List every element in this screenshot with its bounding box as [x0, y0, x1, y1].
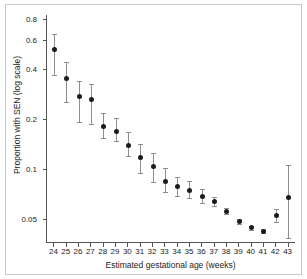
y-tick-mark [43, 119, 47, 120]
data-point [175, 184, 180, 189]
error-bar-cap [77, 122, 82, 123]
data-point [151, 164, 156, 169]
y-tick-label: 0.2 [26, 115, 37, 124]
y-tick-mark [43, 19, 47, 20]
x-tick-label: 38 [222, 247, 231, 256]
error-bar-cap [286, 238, 291, 239]
error-bar-cap [212, 197, 217, 198]
error-bar-cap [200, 203, 205, 204]
error-bar-cap [187, 198, 192, 199]
error-bar-cap [286, 165, 291, 166]
data-point [237, 219, 242, 224]
data-point [64, 76, 69, 81]
data-layer [47, 15, 295, 242]
data-point [200, 194, 205, 199]
error-bar [54, 34, 55, 75]
error-bar-cap [175, 177, 180, 178]
error-bar-cap [138, 173, 143, 174]
x-tick-label: 41 [258, 247, 267, 256]
error-bar-cap [163, 192, 168, 193]
error-bar-cap [151, 153, 156, 154]
data-point [114, 129, 119, 134]
error-bar-cap [163, 168, 168, 169]
x-tick-label: 30 [123, 247, 132, 256]
x-tick-label: 31 [135, 247, 144, 256]
data-point [126, 143, 131, 148]
error-bar-cap [200, 189, 205, 190]
error-bar-cap [52, 34, 57, 35]
x-tick-label: 42 [271, 247, 280, 256]
x-tick-label: 29 [111, 247, 120, 256]
error-bar-cap [89, 124, 94, 125]
x-tick-label: 25 [61, 247, 70, 256]
error-bar-cap [89, 84, 94, 85]
figure-container: 0.80.60.40.20.10.05 24252627282930313233… [0, 0, 307, 279]
error-bar [288, 165, 289, 238]
y-axis-title: Proportion with SEN (log scale) [12, 15, 22, 215]
error-bar-cap [101, 138, 106, 139]
x-tick-label: 40 [246, 247, 255, 256]
error-bar-cap [52, 75, 57, 76]
error-bar-cap [212, 206, 217, 207]
y-tick-label: 0.1 [26, 165, 37, 174]
error-bar [66, 62, 67, 101]
error-bar-cap [151, 182, 156, 183]
data-point [138, 155, 143, 160]
y-tick-label: 0.05 [21, 215, 37, 224]
error-bar-cap [175, 196, 180, 197]
y-tick-mark [43, 169, 47, 170]
error-bar-cap [138, 144, 143, 145]
error-bar-cap [126, 132, 131, 133]
error-bar-cap [274, 222, 279, 223]
y-tick-label: 0.6 [26, 36, 37, 45]
error-bar-cap [64, 102, 69, 103]
x-tick-label: 33 [160, 247, 169, 256]
data-point [212, 199, 217, 204]
y-tick-label: 0.4 [26, 65, 37, 74]
x-tick-label: 37 [209, 247, 218, 256]
error-bar-cap [126, 156, 131, 157]
data-point [286, 195, 291, 200]
x-axis-tick-labels: 2425262728293031323334353637383940414243 [46, 247, 295, 258]
y-tick-mark [43, 219, 47, 220]
data-point [52, 47, 57, 52]
error-bar-cap [77, 81, 82, 82]
x-tick-label: 39 [234, 247, 243, 256]
data-point [224, 209, 229, 214]
error-bar-cap [114, 118, 119, 119]
x-tick-label: 36 [197, 247, 206, 256]
error-bar [91, 84, 92, 123]
error-bar [79, 81, 80, 122]
x-tick-label: 43 [283, 247, 292, 256]
x-tick-label: 35 [185, 247, 194, 256]
x-tick-label: 32 [148, 247, 157, 256]
x-axis-title: Estimated gestational age (weeks) [46, 260, 295, 270]
x-tick-label: 34 [172, 247, 181, 256]
x-tick-label: 27 [86, 247, 95, 256]
x-tick-label: 28 [98, 247, 107, 256]
data-point [77, 94, 82, 99]
error-bar-cap [101, 113, 106, 114]
data-point [89, 97, 94, 102]
y-tick-mark [43, 69, 47, 70]
x-tick-label: 24 [49, 247, 58, 256]
error-bar-cap [224, 214, 229, 215]
plot-area [46, 15, 295, 243]
error-bar-cap [114, 141, 119, 142]
error-bar-cap [274, 209, 279, 210]
x-tick-label: 26 [74, 247, 83, 256]
error-bar-cap [64, 62, 69, 63]
data-point [187, 188, 192, 193]
error-bar-cap [187, 181, 192, 182]
data-point [274, 213, 279, 218]
y-tick-mark [43, 40, 47, 41]
data-point [163, 179, 168, 184]
y-tick-label: 0.8 [26, 15, 37, 24]
data-point [101, 124, 106, 129]
